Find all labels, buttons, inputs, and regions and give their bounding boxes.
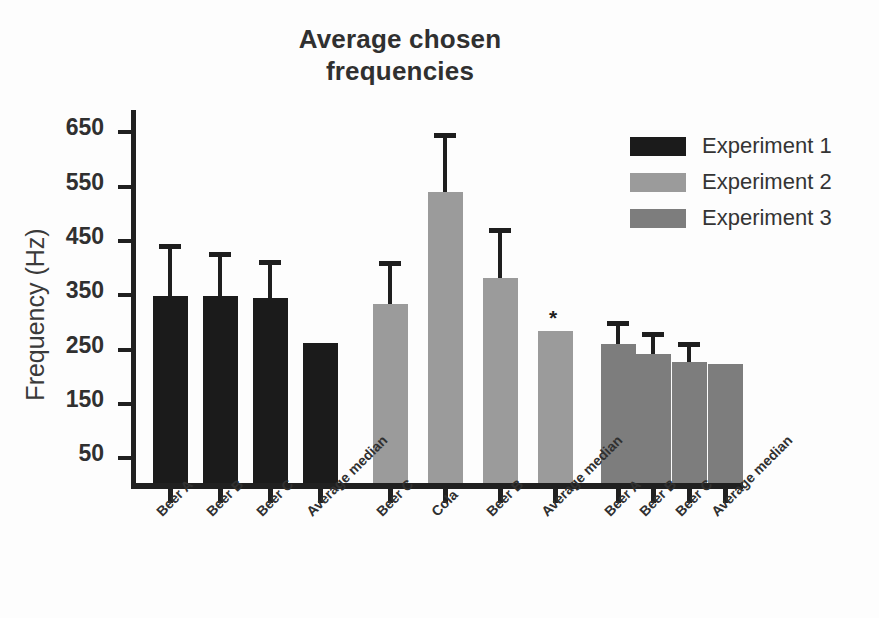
significance-star-exp2-average-median: *: [549, 307, 557, 328]
errorbar-cap-exp1-beer-b: [209, 252, 231, 257]
legend-item-experiment-1[interactable]: Experiment 1: [630, 128, 832, 164]
chart-legend: Experiment 1 Experiment 2 Experiment 3: [630, 128, 832, 236]
errorbar-cap-exp3-beer-c: [678, 342, 700, 347]
errorbar-exp1-beer-c: [268, 265, 272, 298]
errorbar-exp3-beer-c: [687, 347, 691, 362]
errorbar-cap-exp2-beer-c: [379, 261, 401, 266]
y-tick-label-50: 50: [78, 440, 104, 467]
errorbar-cap-exp1-beer-a: [159, 244, 181, 249]
y-tick-650: 650: [118, 130, 131, 134]
legend-swatch-experiment-3: [630, 209, 686, 228]
y-tick-label-550: 550: [66, 169, 104, 196]
y-tick-label-350: 350: [66, 277, 104, 304]
errorbar-exp1-beer-a: [168, 249, 172, 296]
chart-figure: Average chosen frequencies Frequency (Hz…: [0, 0, 879, 618]
y-tick-label-450: 450: [66, 223, 104, 250]
legend-item-experiment-3[interactable]: Experiment 3: [630, 200, 832, 236]
y-tick-250: 250: [118, 348, 131, 352]
errorbar-exp2-cola: [443, 138, 447, 192]
bar-exp3-beer-b[interactable]: [636, 354, 671, 483]
chart-title-line-2: frequencies: [190, 56, 610, 88]
errorbar-cap-exp1-beer-c: [259, 260, 281, 265]
chart-title-line-1: Average chosen: [190, 24, 610, 56]
bar-exp2-average-median[interactable]: [538, 331, 573, 483]
bar-exp2-cola[interactable]: [428, 192, 463, 483]
bar-exp2-beer-c[interactable]: [373, 304, 408, 483]
bar-exp1-average-median[interactable]: [303, 343, 338, 483]
y-tick-label-650: 650: [66, 114, 104, 141]
y-tick-450: 450: [118, 239, 131, 243]
y-tick-50: 50: [118, 456, 131, 460]
errorbar-exp1-beer-b: [218, 257, 222, 296]
y-tick-350: 350: [118, 293, 131, 297]
y-axis-label: Frequency (Hz): [21, 150, 50, 480]
bar-exp1-beer-a[interactable]: [153, 296, 188, 483]
errorbar-cap-exp2-beer-b: [489, 228, 511, 233]
y-tick-label-250: 250: [66, 332, 104, 359]
errorbar-cap-exp3-beer-a: [607, 321, 629, 326]
bar-exp1-beer-b[interactable]: [203, 296, 238, 483]
y-tick-label-150: 150: [66, 386, 104, 413]
legend-label-experiment-2: Experiment 2: [702, 169, 832, 195]
errorbar-exp2-beer-b: [498, 233, 502, 278]
errorbar-cap-exp3-beer-b: [642, 332, 664, 337]
y-tick-150: 150: [118, 402, 131, 406]
errorbar-exp3-beer-b: [651, 337, 655, 354]
bar-exp1-beer-c[interactable]: [253, 298, 288, 483]
errorbar-cap-exp2-cola: [434, 133, 456, 138]
chart-title: Average chosen frequencies: [190, 24, 610, 87]
errorbar-exp3-beer-a: [616, 326, 620, 344]
y-tick-550: 550: [118, 185, 131, 189]
legend-swatch-experiment-1: [630, 137, 686, 156]
x-tick-label-5: Cola: [428, 487, 461, 520]
bar-exp3-average-median[interactable]: [708, 364, 743, 483]
legend-label-experiment-1: Experiment 1: [702, 133, 832, 159]
legend-swatch-experiment-2: [630, 173, 686, 192]
legend-label-experiment-3: Experiment 3: [702, 205, 832, 231]
bar-exp3-beer-c[interactable]: [672, 362, 707, 483]
bar-exp2-beer-b[interactable]: [483, 278, 518, 483]
legend-item-experiment-2[interactable]: Experiment 2: [630, 164, 832, 200]
y-axis-line: [131, 110, 136, 486]
errorbar-exp2-beer-c: [388, 266, 392, 304]
